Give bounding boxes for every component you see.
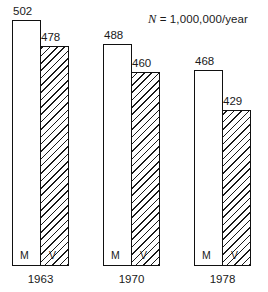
group-label-1978: 1978 [194, 274, 251, 286]
bar-v-1963 [40, 46, 69, 266]
bar-letter-v-1970: V [140, 250, 147, 261]
bar-value-m-1963: 502 [13, 6, 32, 18]
bar-value-m-1978: 468 [195, 56, 214, 68]
bar-letter-v-1963: V [49, 250, 56, 261]
bar-v-1970 [131, 72, 160, 266]
group-label-1963: 1963 [12, 274, 69, 286]
bar-m-1963 [12, 20, 41, 266]
bar-m-1970 [103, 44, 132, 266]
bar-group-1978: 468 M 429 V 1978 [181, 0, 268, 292]
bar-v-1978 [222, 110, 251, 266]
bar-value-v-1963: 478 [41, 32, 60, 44]
bar-letter-v-1978: V [231, 250, 238, 261]
bar-value-v-1970: 460 [132, 58, 151, 70]
bar-letter-m-1963: M [20, 250, 29, 261]
plot-area: 502 M 478 V 1963 488 M 460 V 1970 468 M … [0, 0, 268, 292]
bar-value-m-1970: 488 [104, 30, 123, 42]
group-label-1970: 1970 [103, 274, 160, 286]
bar-m-1978 [194, 70, 223, 266]
chart-figure: N = 1,000,000/year 502 M 478 V 1963 488 … [0, 0, 268, 292]
bar-value-v-1978: 429 [223, 96, 242, 108]
bar-group-1963: 502 M 478 V 1963 [0, 0, 90, 292]
bar-letter-m-1970: M [111, 250, 120, 261]
bar-group-1970: 488 M 460 V 1970 [90, 0, 180, 292]
bar-letter-m-1978: M [202, 250, 211, 261]
